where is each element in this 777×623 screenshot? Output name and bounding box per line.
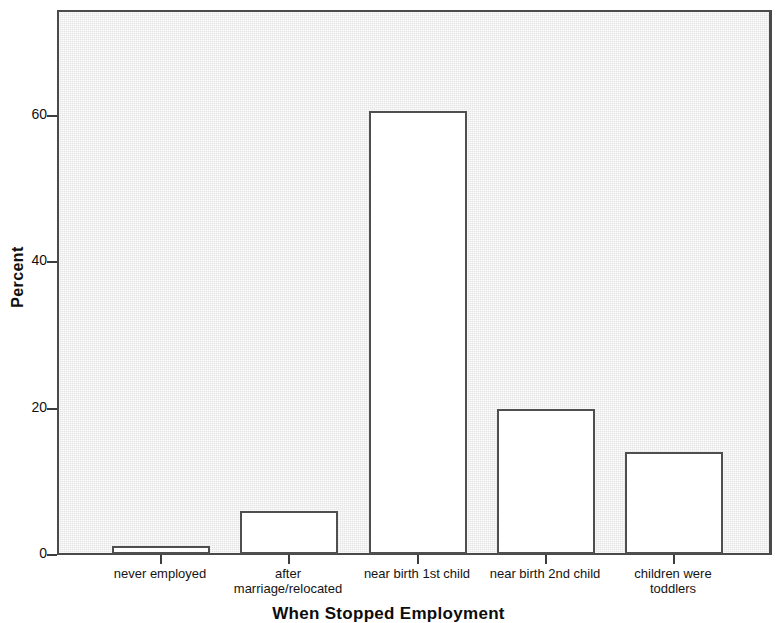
x-tick-2 (288, 555, 290, 564)
x-tick-label-4-line1: near birth 2nd child (475, 566, 615, 581)
x-tick-3 (417, 555, 419, 564)
bar-children-toddlers[interactable] (625, 452, 723, 554)
x-tick-label-5: children were toddlers (603, 566, 743, 596)
y-tick-label-40: 40 (3, 252, 47, 268)
x-tick-label-4: near birth 2nd child (475, 566, 615, 581)
y-tick-label-20: 20 (3, 399, 47, 415)
y-tick-20 (47, 408, 57, 410)
x-tick-label-1: never employed (90, 566, 230, 581)
bar-near-birth-2nd[interactable] (497, 409, 595, 554)
x-tick-label-5-line2: toddlers (603, 581, 743, 596)
x-tick-5 (673, 555, 675, 564)
y-tick-0 (47, 554, 57, 556)
y-axis-title: Percent (9, 227, 27, 327)
x-tick-label-5-line1: children were (603, 566, 743, 581)
x-tick-label-2: after marriage/relocated (218, 566, 358, 596)
x-tick-label-1-line1: never employed (90, 566, 230, 581)
bar-after-marriage[interactable] (240, 511, 338, 554)
y-tick-label-0: 0 (3, 545, 47, 561)
y-tick-label-60: 60 (3, 106, 47, 122)
bars-layer (57, 10, 772, 555)
x-tick-4 (545, 555, 547, 564)
x-tick-label-3-line1: near birth 1st child (347, 566, 487, 581)
x-axis-title: When Stopped Employment (0, 604, 777, 623)
x-tick-1 (160, 555, 162, 564)
bar-near-birth-1st[interactable] (369, 111, 467, 554)
bar-chart: Percent 0 20 40 60 never employed after … (0, 0, 777, 623)
y-tick-40 (47, 261, 57, 263)
x-tick-label-3: near birth 1st child (347, 566, 487, 581)
x-tick-label-2-line1: after (218, 566, 358, 581)
y-tick-60 (47, 115, 57, 117)
bar-never-employed[interactable] (112, 546, 210, 554)
x-tick-label-2-line2: marriage/relocated (218, 581, 358, 596)
